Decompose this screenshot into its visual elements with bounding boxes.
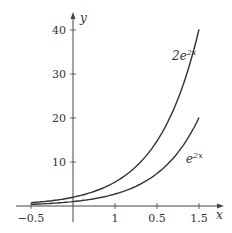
x-tick-label: 1 <box>112 212 119 225</box>
x-tick-label: −0.5 <box>18 212 45 225</box>
y-axis: y <box>71 11 88 222</box>
y-tick-label: 40 <box>52 24 66 37</box>
y-tick-label: 30 <box>52 68 66 81</box>
y-axis-arrow-icon <box>71 12 76 19</box>
x-tick-label: 0.5 <box>148 212 166 225</box>
x-tick-label: 1.5 <box>190 212 208 225</box>
y-ticks: 10203040 <box>52 24 76 169</box>
y-axis-label: y <box>79 11 87 25</box>
exponential-chart: x y −0.510.51.5 10203040 2e2x e2x <box>0 0 232 233</box>
curve-label-e-2x: e2x <box>186 151 203 166</box>
y-tick-label: 10 <box>52 156 66 169</box>
x-axis-label: x <box>216 208 223 222</box>
curve-label-2e-2x: 2e2x <box>171 48 197 63</box>
y-tick-label: 20 <box>52 112 66 125</box>
